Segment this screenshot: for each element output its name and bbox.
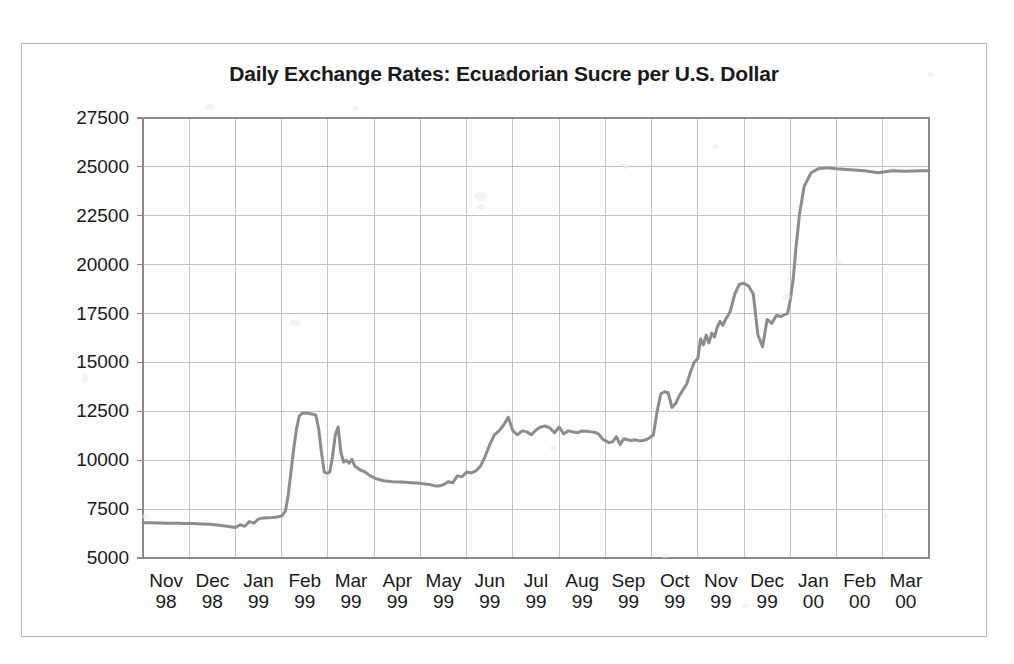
ytick-label: 10000: [22, 449, 129, 471]
ytick-label: 17500: [22, 303, 129, 325]
ytick-label: 15000: [22, 351, 129, 373]
figure-frame: Daily Exchange Rates: Ecuadorian Sucre p…: [21, 43, 987, 637]
plot-border: [143, 118, 929, 558]
xtick-year: 00: [871, 591, 941, 612]
chart-plot: [22, 44, 988, 638]
ytick-label: 5000: [22, 547, 129, 569]
ytick-label: 22500: [22, 205, 129, 227]
ytick-label: 25000: [22, 156, 129, 178]
ytick-label: 12500: [22, 400, 129, 422]
xtick-label: Mar00: [871, 570, 941, 613]
data-line-sucre-per-dollar: [143, 168, 929, 528]
xtick-month: Mar: [871, 570, 941, 591]
ytick-label: 27500: [22, 107, 129, 129]
ytick-label: 7500: [22, 498, 129, 520]
ytick-label: 20000: [22, 254, 129, 276]
